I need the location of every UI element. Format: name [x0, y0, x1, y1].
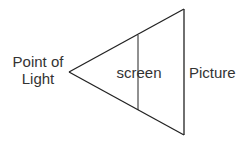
- projection-diagram: Point of Light screen Picture: [0, 0, 250, 147]
- picture-label: Picture: [189, 64, 236, 81]
- point-of-light-line1: Point of: [8, 53, 68, 70]
- lower-ray: [69, 72, 184, 135]
- point-of-light-label: Point of Light: [8, 53, 68, 87]
- upper-ray: [69, 9, 184, 72]
- point-of-light-line2: Light: [8, 70, 68, 87]
- screen-label: screen: [113, 64, 165, 81]
